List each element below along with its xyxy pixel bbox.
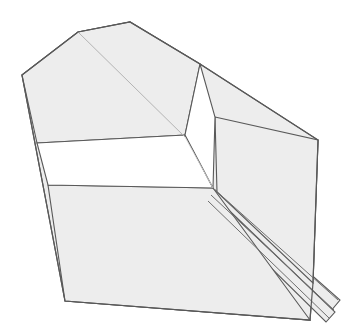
folded-paper-diagram: Folded paper line drawing Line-art outli… [0,0,359,331]
figure-root: Folded paper line drawing Line-art outli… [0,0,359,331]
shape-white-band-notch [37,135,213,188]
